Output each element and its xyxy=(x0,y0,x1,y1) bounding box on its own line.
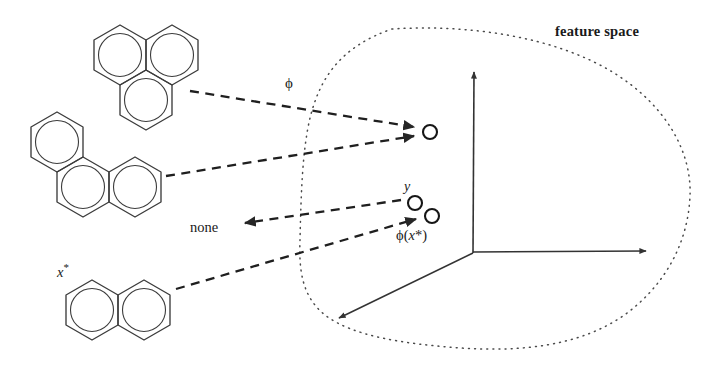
axis-horizontal xyxy=(473,251,646,252)
point-phi-xstar-label: ϕ(x*) xyxy=(396,228,427,243)
feature-space-diagram: feature space ϕ none y ϕ(x*) x* xyxy=(0,0,718,365)
molecule-xstar-label: x* xyxy=(57,262,69,279)
axis-vertical xyxy=(473,72,474,253)
feature-point-phi-xstar xyxy=(425,209,439,223)
mapping-arrow-phenalene xyxy=(190,91,414,127)
molecule-phenalene xyxy=(94,25,198,130)
diagram-canvas xyxy=(0,0,718,365)
feature-point-y xyxy=(408,196,422,210)
mapping-arrow-phenanthrene xyxy=(166,136,414,176)
feature-space-boundary xyxy=(300,28,690,349)
feature-space-axes xyxy=(339,72,646,318)
phi-xstar-prefix: ϕ( xyxy=(396,227,408,243)
feature-points xyxy=(408,125,439,223)
phi-map-label: ϕ xyxy=(285,76,293,91)
none-label: none xyxy=(190,220,218,235)
axis-depth xyxy=(339,253,473,318)
mapping-arrow-none xyxy=(245,200,401,223)
molecule-naphthalene xyxy=(66,280,170,340)
feature-point-image-top xyxy=(423,125,437,139)
mapping-arrows xyxy=(166,91,416,289)
feature-space-label: feature space xyxy=(555,24,639,39)
molecule-xstar-star: * xyxy=(63,261,69,273)
point-y-label: y xyxy=(404,180,410,194)
phi-xstar-suffix: ) xyxy=(422,227,427,243)
